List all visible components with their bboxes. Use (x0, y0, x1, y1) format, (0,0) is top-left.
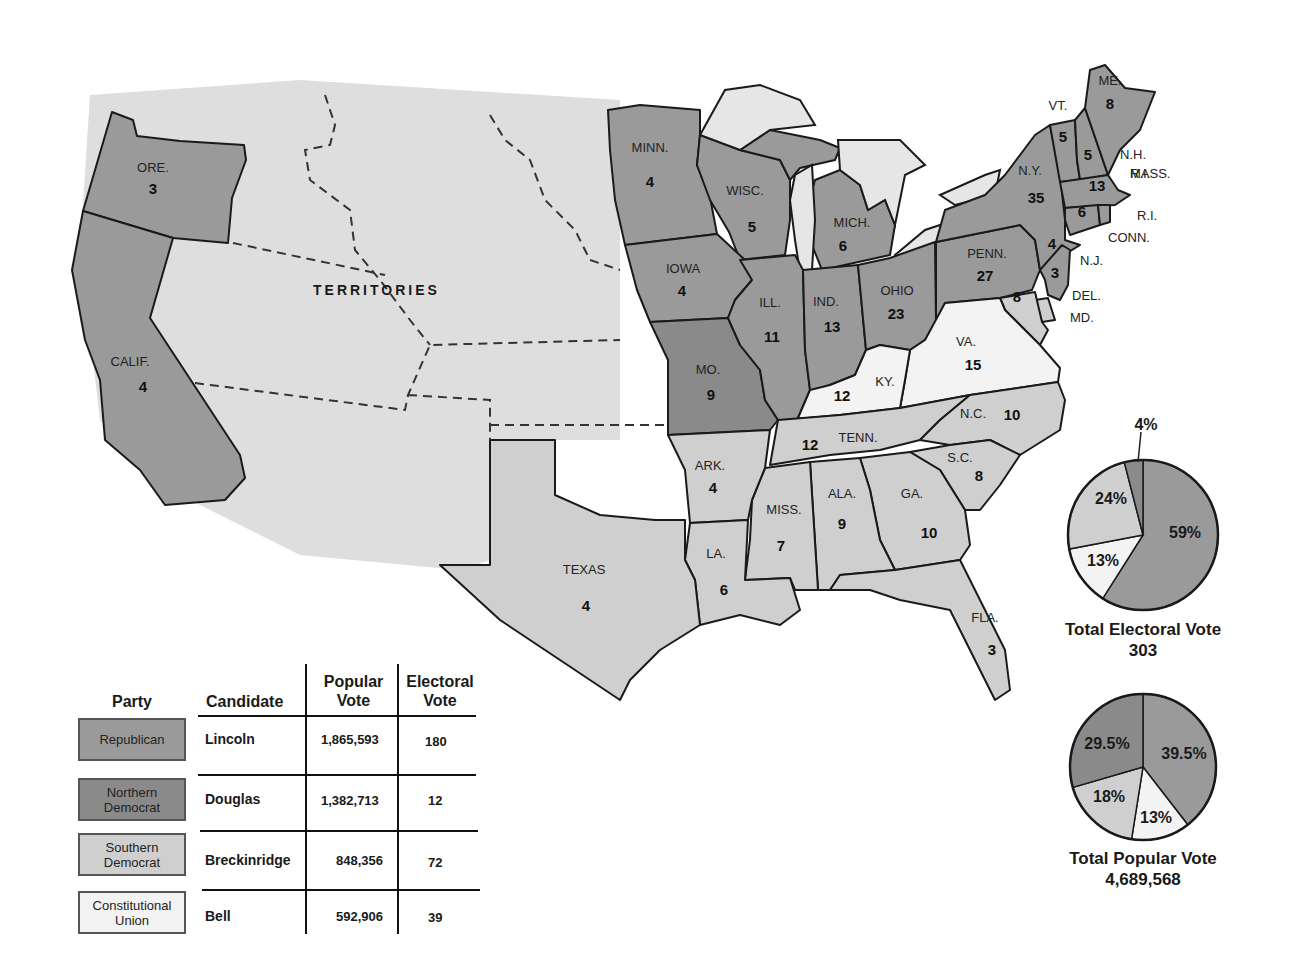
popular-title-text: Total Popular Vote (1069, 848, 1217, 869)
state-label-florida: FLA. (971, 610, 998, 625)
state-votes-illinois: 11 (764, 328, 780, 345)
state-label-mass: MASS. (1130, 166, 1170, 181)
state-label-south-carolina: S.C. (947, 450, 972, 465)
header-popular-line1: Popular (306, 672, 401, 691)
popular-pct-republican: 39.5% (1161, 745, 1206, 763)
column-divider (397, 664, 399, 934)
popular-total: 4,689,568 (1069, 869, 1217, 890)
state-votes-indiana: 13 (824, 318, 841, 335)
party-line1: Constitutional (93, 898, 172, 913)
state-label-virginia: VA. (956, 334, 976, 349)
popular-pct-northern-democrat: 29.5% (1084, 735, 1129, 753)
popular-douglas: 1,382,713 (321, 793, 379, 808)
state-label-arkansas: ARK. (695, 458, 725, 473)
state-votes-california: 4 (139, 378, 147, 395)
state-rhode-island[interactable] (1098, 205, 1110, 225)
swatch-northern-democrat: NorthernDemocrat (78, 778, 186, 821)
row-rule (200, 830, 478, 832)
state-votes-new-jersey-north: 4 (1048, 235, 1056, 252)
state-votes-louisiana: 6 (720, 581, 728, 598)
candidate-lincoln: Lincoln (205, 731, 255, 747)
electoral-lincoln: 180 (425, 734, 447, 749)
party-line1: Northern (107, 785, 158, 800)
state-label-maine: ME. (1098, 73, 1121, 88)
party-label: NorthernDemocrat (104, 785, 160, 815)
state-florida[interactable] (830, 560, 1010, 700)
header-electoral-line2: Vote (400, 691, 480, 710)
state-label-texas: TEXAS (563, 562, 606, 577)
party-label: ConstitutionalUnion (93, 898, 172, 928)
state-label-vermont: VT. (1049, 98, 1068, 113)
header-popular-line2: Vote (306, 691, 401, 710)
state-label-alabama: ALA. (828, 486, 856, 501)
state-label-new-york: N.Y. (1018, 163, 1042, 178)
state-votes-mississippi: 7 (777, 537, 785, 554)
state-votes-maine: 8 (1106, 95, 1114, 112)
party-line2: Democrat (104, 855, 160, 870)
state-votes-connecticut: 6 (1078, 203, 1086, 220)
swatch-constitutional-union: ConstitutionalUnion (78, 891, 186, 934)
swatch-southern-democrat: SouthernDemocrat (78, 833, 186, 876)
electoral-douglas: 12 (428, 793, 442, 808)
state-label-michigan: MICH. (834, 215, 871, 230)
header-party: Party (78, 692, 186, 711)
popular-breckinridge: 848,356 (336, 853, 383, 868)
state-votes-pennsylvania: 27 (977, 267, 994, 284)
state-label-kentucky: KY. (875, 374, 894, 389)
party-line2: Democrat (104, 800, 160, 815)
electoral-total: 303 (1065, 640, 1221, 661)
party-label: SouthernDemocrat (104, 840, 160, 870)
candidate-breckinridge: Breckinridge (205, 852, 291, 868)
header-candidate: Candidate (206, 692, 283, 711)
state-label-iowa: IOWA (666, 261, 700, 276)
state-votes-new-york: 35 (1028, 189, 1045, 206)
swatch-republican: Republican (78, 718, 186, 761)
electoral-title-text: Total Electoral Vote (1065, 619, 1221, 640)
party-line2: Union (115, 913, 149, 928)
state-label-new-jersey: N.J. (1080, 253, 1103, 268)
electoral-pct-constitutional-union: 13% (1087, 552, 1119, 570)
candidate-bell: Bell (205, 908, 231, 924)
state-votes-minnesota: 4 (646, 173, 654, 190)
header-electoral-line1: Electoral (400, 672, 480, 691)
state-label-delaware: DEL. (1072, 288, 1101, 303)
state-votes-missouri: 9 (707, 386, 715, 403)
state-label-missouri: MO. (696, 362, 721, 377)
header-electoral-vote: Electoral Vote (400, 672, 480, 710)
state-votes-oregon: 3 (149, 180, 157, 197)
state-label-maryland: MD. (1070, 310, 1094, 325)
state-votes-arkansas: 4 (709, 479, 717, 496)
state-label-georgia: GA. (901, 486, 923, 501)
state-votes-michigan: 6 (839, 237, 847, 254)
state-label-wisconsin: WISC. (726, 183, 764, 198)
state-label-indiana: IND. (813, 294, 839, 309)
state-votes-georgia: 10 (921, 524, 938, 541)
electoral-bell: 39 (428, 910, 442, 925)
state-votes-alabama: 9 (838, 515, 846, 532)
popular-bell: 592,906 (336, 909, 383, 924)
party-label: Republican (99, 732, 164, 747)
state-label-rhode-island: R.I. (1137, 208, 1157, 223)
state-votes-north-carolina: 10 (1004, 406, 1021, 423)
party-line1: Southern (106, 840, 159, 855)
popular-pct-constitutional-union: 13% (1140, 809, 1172, 827)
electoral-pct-southern-democrat: 24% (1095, 490, 1127, 508)
candidate-douglas: Douglas (205, 791, 260, 807)
state-votes-south-carolina: 8 (975, 467, 983, 484)
state-votes-massachusetts: 13 (1089, 177, 1106, 194)
popular-lincoln: 1,865,593 (321, 732, 379, 747)
state-label-ohio: OHIO (880, 283, 913, 298)
state-label-pennsylvania: PENN. (967, 246, 1007, 261)
column-divider (305, 664, 307, 934)
state-votes-vermont: 5 (1059, 128, 1067, 145)
row-rule (202, 889, 480, 891)
state-label-new-hampshire: N.H. (1120, 147, 1146, 162)
state-votes-tennessee: 12 (802, 436, 819, 453)
state-votes-florida: 3 (988, 641, 996, 658)
state-votes-new-jersey: 3 (1051, 264, 1059, 281)
state-label-connecticut: CONN. (1108, 230, 1150, 245)
state-votes-kentucky: 12 (834, 387, 851, 404)
state-votes-wisconsin: 5 (748, 218, 756, 235)
popular-pie-title: Total Popular Vote 4,689,568 (1069, 848, 1217, 890)
state-label-minnesota: MINN. (632, 140, 669, 155)
